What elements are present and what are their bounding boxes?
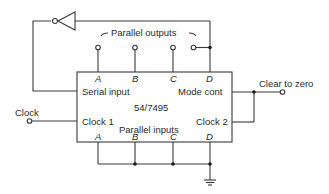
serial-input-label: Serial input [82, 87, 130, 97]
clock-input-label: Clock [15, 108, 39, 118]
clock1-label: Clock 1 [82, 117, 114, 127]
junction-dot [133, 162, 137, 166]
mode-cont-label: Mode cont [178, 87, 222, 97]
junction-dot [208, 46, 212, 50]
top-pin-c: C [170, 74, 177, 84]
clear-to-zero-label: Clear to zero [259, 79, 313, 89]
chip-number-label: 54/7495 [134, 103, 168, 113]
top-pin-a: A [95, 74, 101, 84]
ground-icon [204, 180, 216, 185]
bottom-pin-a: A [95, 132, 101, 142]
junction-dot [208, 162, 212, 166]
inverter-icon [58, 12, 75, 30]
bottom-pin-d: D [206, 132, 213, 142]
top-pin-b: B [132, 74, 138, 84]
parallel-outputs-label: Parallel outputs [111, 28, 176, 38]
bottom-pin-c: C [170, 132, 177, 142]
junction-dot [252, 90, 256, 94]
clock2-label: Clock 2 [196, 117, 228, 127]
top-pin-d: D [206, 74, 213, 84]
bottom-pin-b: B [132, 132, 138, 142]
junction-dot [171, 162, 175, 166]
